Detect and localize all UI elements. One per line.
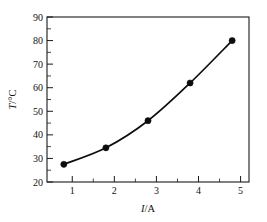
y-tick-label: 80 (33, 35, 43, 46)
svg-text:T/°C: T/°C (7, 90, 18, 110)
chart-container: 90 80 70 60 50 40 30 20 1 2 3 4 5 T/°C I… (0, 0, 267, 222)
line-chart: 90 80 70 60 50 40 30 20 1 2 3 4 5 T/°C I… (0, 0, 267, 222)
y-tick-label: 20 (33, 177, 43, 188)
data-point (187, 80, 193, 86)
x-tick-label: 3 (154, 185, 159, 196)
data-point (229, 37, 235, 43)
x-tick-label: 5 (238, 185, 243, 196)
y-axis-title: T/°C (7, 90, 18, 110)
data-point (145, 118, 151, 124)
y-tick-label: 60 (33, 82, 43, 93)
x-axis-title: I/A (140, 203, 155, 214)
x-axis-title-unit: /A (145, 203, 156, 214)
y-tick-label: 90 (33, 12, 43, 23)
x-tick-label: 4 (196, 185, 201, 196)
data-point (103, 145, 109, 151)
y-tick-label: 30 (33, 153, 43, 164)
y-tick-label: 70 (33, 59, 43, 70)
x-tick-label: 1 (70, 185, 75, 196)
y-tick-label: 50 (33, 106, 43, 117)
y-tick-label: 40 (33, 129, 43, 140)
x-tick-label: 2 (112, 185, 117, 196)
y-axis-title-unit: /°C (7, 90, 18, 104)
data-point (61, 161, 67, 167)
